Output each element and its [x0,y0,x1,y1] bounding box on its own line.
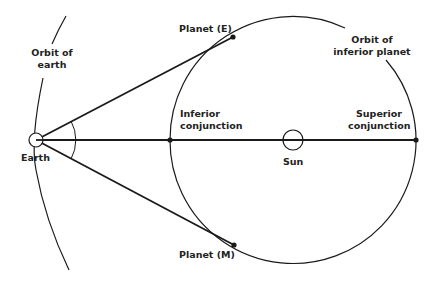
label-line: Orbit of [324,34,420,46]
planet-m-dot [231,242,236,247]
label-earth: Earth [21,152,50,164]
line-earth-planet-m [36,140,234,245]
label-line: Orbit of [24,47,80,59]
label-line: conjunction [348,120,410,132]
planet-e-dot [230,34,235,39]
label-orbit-of-earth: Orbit of earth [24,47,80,71]
earth-orbit-upper [52,16,66,44]
label-planet-e: Planet (E) [179,23,232,35]
label-line: earth [24,59,80,71]
label-planet-m: Planet (M) [179,249,235,261]
inferior-conjunction-dot [167,137,172,142]
label-orbit-inferior: Orbit of inferior planet [324,34,420,58]
earth-orbit-lower [34,78,69,270]
label-superior-conjunction: Superior conjunction [348,108,410,132]
label-sun: Sun [283,156,303,168]
label-line: Superior [348,108,410,120]
superior-conjunction-dot [413,137,418,142]
label-line: inferior planet [324,46,420,58]
label-line: Inferior [180,108,242,120]
label-line: conjunction [180,120,242,132]
label-inferior-conjunction: Inferior conjunction [180,108,242,132]
